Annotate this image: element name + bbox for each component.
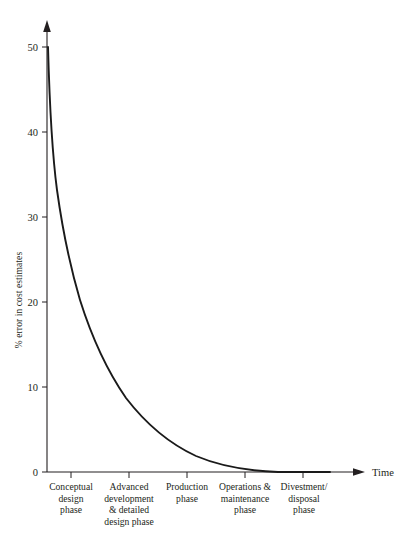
x-axis-title: Time <box>372 467 394 478</box>
y-tick-label-20: 20 <box>28 297 39 308</box>
error-decay-curve <box>48 47 330 472</box>
phase-label-advanced-development: Advanced development & detailed design p… <box>94 481 164 527</box>
y-tick-label-30: 30 <box>28 212 39 223</box>
chart-figure: 0 10 20 30 40 50 % error in cost estimat… <box>0 0 415 551</box>
y-axis-tick-labels: 0 10 20 30 40 50 <box>28 42 39 478</box>
y-axis-ticks <box>42 47 47 472</box>
y-tick-label-40: 40 <box>28 127 39 138</box>
y-axis-title: % error in cost estimates <box>14 252 24 349</box>
cost-error-decay-chart: 0 10 20 30 40 50 % error in cost estimat… <box>0 0 415 551</box>
y-tick-label-0: 0 <box>33 467 38 478</box>
phase-label-operations-maintenance: Operations & maintenance phase <box>210 481 280 516</box>
x-axis-arrowhead <box>353 468 365 476</box>
y-tick-label-10: 10 <box>28 382 39 393</box>
y-tick-label-50: 50 <box>28 42 39 53</box>
y-axis-arrowhead <box>43 20 51 32</box>
phase-label-divestment-disposal: Divestment/ disposal phase <box>272 481 336 516</box>
x-axis-ticks <box>71 472 303 478</box>
